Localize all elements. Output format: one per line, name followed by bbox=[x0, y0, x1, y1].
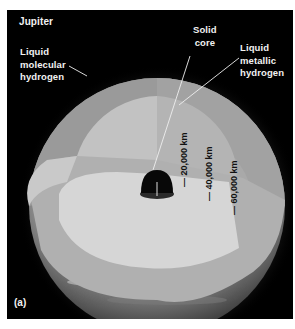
figure-panel: Jupiter Liquid molecular hydrogen Solid … bbox=[7, 10, 293, 319]
leader-line-molecular bbox=[69, 66, 87, 76]
figure-title: Jupiter bbox=[19, 16, 53, 29]
label-liquid-molecular-hydrogen: Liquid molecular hydrogen bbox=[20, 46, 66, 84]
distance-label-20000km: — 20,000 km bbox=[179, 132, 189, 187]
label-solid-core: Solid core bbox=[193, 24, 217, 49]
label-liquid-metallic-hydrogen: Liquid metallic hydrogen bbox=[240, 42, 284, 80]
distance-label-60000km: — 60,000 km bbox=[229, 160, 239, 215]
distance-label-40000km: — 40,000 km bbox=[204, 146, 214, 201]
panel-label: (a) bbox=[14, 297, 26, 308]
